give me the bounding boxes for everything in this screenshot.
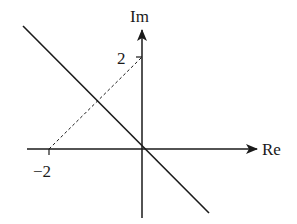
x-tick-label: −2 bbox=[33, 162, 51, 181]
dashed-segment bbox=[49, 57, 142, 149]
y-axis-label: Im bbox=[130, 7, 149, 26]
complex-plane-diagram: Im Re 2 −2 bbox=[0, 0, 297, 224]
solid-line bbox=[23, 26, 209, 213]
y-tick-label: 2 bbox=[117, 49, 126, 68]
x-axis-label: Re bbox=[262, 140, 281, 159]
